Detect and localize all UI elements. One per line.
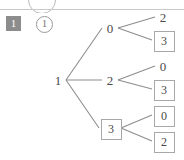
tree-node-boxed[interactable]: 0 xyxy=(154,106,175,127)
tree-node-boxed[interactable]: 2 xyxy=(154,132,175,153)
tree-edge xyxy=(66,28,102,80)
tree-node[interactable]: 0 xyxy=(157,60,170,73)
tree-node-boxed[interactable]: 3 xyxy=(101,119,122,140)
tree-edge xyxy=(121,115,152,128)
tree-edge xyxy=(118,80,152,89)
tree-node[interactable]: 2 xyxy=(157,11,170,24)
tree-edge xyxy=(118,17,155,28)
tree-edge xyxy=(118,66,155,80)
tree-node-boxed[interactable]: 3 xyxy=(154,31,175,52)
screenshot-root: 1 1 1023203302 xyxy=(0,0,184,160)
tree-edge xyxy=(66,80,99,128)
tree-diagram: 1023203302 xyxy=(0,0,184,160)
tree-node[interactable]: 2 xyxy=(104,74,117,87)
tree-edge xyxy=(118,28,152,40)
tree-node-boxed[interactable]: 3 xyxy=(154,80,175,101)
tree-edge xyxy=(121,128,152,141)
tree-node[interactable]: 0 xyxy=(104,22,117,35)
tree-node[interactable]: 1 xyxy=(52,74,65,87)
